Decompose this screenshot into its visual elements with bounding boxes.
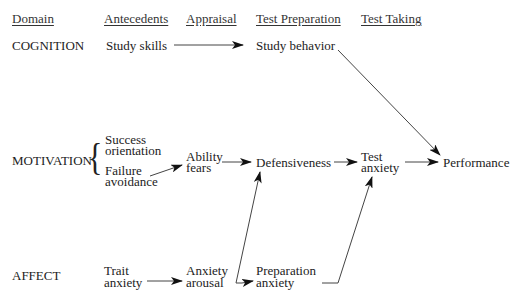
arrow-preparation-to-test-anxiety (322, 177, 372, 283)
arrow-failure-to-ability-fears (150, 165, 182, 176)
arrow-arousal-to-preparation-anxiety (236, 281, 253, 283)
arrows-layer (0, 0, 512, 297)
arrow-arousal-to-defensiveness (236, 172, 260, 283)
arrow-study-behavior-to-performance (338, 50, 440, 155)
